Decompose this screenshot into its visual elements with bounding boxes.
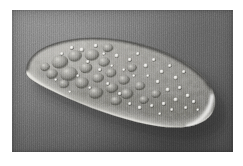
page-canvas — [0, 0, 243, 166]
micrograph-photo — [12, 10, 233, 152]
film-grain — [12, 10, 233, 152]
